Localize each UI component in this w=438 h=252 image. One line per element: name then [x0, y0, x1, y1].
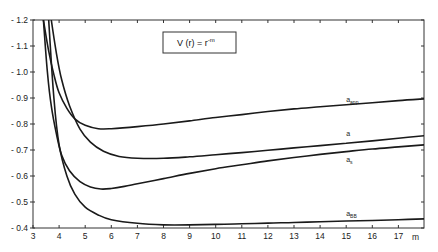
curve-a	[51, 20, 424, 159]
label-a-app: aapp	[346, 96, 358, 105]
x-axis-label: m	[412, 232, 419, 242]
y-tick-label: - 0.7	[11, 145, 28, 155]
x-tick-label: 5	[83, 231, 88, 241]
label-a: a	[346, 130, 350, 137]
x-tick-label: 3	[31, 231, 36, 241]
y-tick-label: - 0.6	[11, 171, 28, 181]
x-tick-label: 6	[109, 231, 114, 241]
x-tick-label: 9	[187, 231, 192, 241]
curve-labels: aappaasaBB	[346, 96, 358, 219]
y-tick-label: - 0.8	[11, 119, 28, 129]
x-tick-label: 14	[315, 231, 325, 241]
x-tick-label: 16	[368, 231, 378, 241]
y-tick-label: - 0.4	[11, 223, 28, 233]
x-tick-label: 17	[394, 231, 404, 241]
y-tick-label: - 0.5	[11, 197, 28, 207]
x-tick-label: 8	[161, 231, 166, 241]
curve-a-BB	[49, 20, 425, 225]
x-tick-label: 7	[135, 231, 140, 241]
y-tick-label: - 0.9	[11, 93, 28, 103]
x-tick-label: 15	[341, 231, 351, 241]
y-tick-label: - 1.1	[11, 41, 28, 51]
y-tick-label: - 1.2	[11, 15, 28, 25]
label-a-BB: aBB	[346, 210, 357, 219]
x-tick-label: 10	[211, 231, 221, 241]
x-tick-label: 4	[57, 231, 62, 241]
y-tick-label: - 1.0	[11, 67, 28, 77]
x-tick-label: 13	[289, 231, 299, 241]
formula-annotation: V (r) = r-m	[163, 32, 236, 53]
label-a-s: as	[346, 156, 353, 165]
x-tick-label: 12	[263, 231, 273, 241]
chart: - 0.4- 0.5- 0.6- 0.7- 0.8- 0.9- 1.0- 1.1…	[0, 0, 438, 252]
x-tick-label: 11	[237, 231, 246, 241]
